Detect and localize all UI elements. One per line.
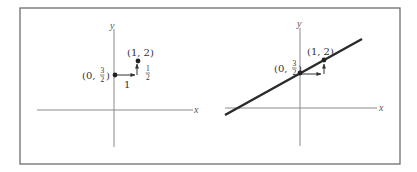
svg-text:3: 3 bbox=[293, 59, 297, 68]
svg-text:2: 2 bbox=[293, 68, 297, 77]
right-panel: y x (0, 3 2 ) (1, 2) bbox=[225, 18, 384, 146]
x-axis-label: x bbox=[378, 102, 384, 113]
run-label: 1 bbox=[124, 79, 130, 90]
label-y-intercept: (0, 3 2 ) bbox=[82, 66, 110, 84]
svg-text:3: 3 bbox=[101, 66, 105, 75]
slope-diagram: y x (0, 3 2 ) (1, 2) 1 1 2 y x bbox=[0, 0, 417, 172]
left-panel: y x (0, 3 2 ) (1, 2) 1 1 2 bbox=[37, 20, 199, 147]
graph-line bbox=[225, 39, 362, 115]
figure-frame bbox=[20, 8, 400, 164]
svg-text:): ) bbox=[298, 63, 302, 74]
svg-text:(0,: (0, bbox=[274, 63, 291, 74]
y-axis-label: y bbox=[109, 20, 115, 31]
label-point-1-2: (1, 2) bbox=[127, 47, 154, 58]
svg-text:1: 1 bbox=[146, 64, 150, 73]
x-axis-label: x bbox=[193, 104, 199, 115]
point-1-2 bbox=[136, 59, 141, 64]
svg-text:2: 2 bbox=[146, 73, 150, 82]
svg-text:(0,: (0, bbox=[82, 70, 99, 81]
svg-text:2: 2 bbox=[101, 75, 105, 84]
label-point-1-2: (1, 2) bbox=[307, 46, 334, 57]
point-1-2 bbox=[322, 58, 327, 63]
point-y-intercept bbox=[113, 73, 118, 78]
rise-label: 1 2 bbox=[146, 64, 151, 82]
svg-text:): ) bbox=[106, 70, 110, 81]
y-axis-label: y bbox=[296, 18, 302, 29]
